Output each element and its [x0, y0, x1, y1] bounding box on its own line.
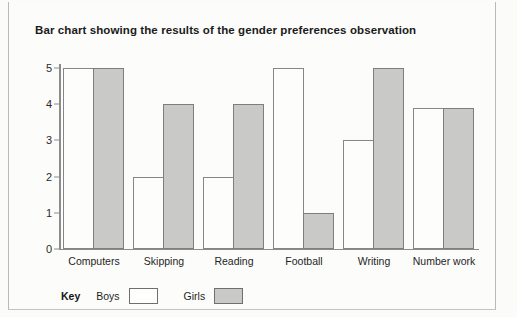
x-axis-category-label: Skipping: [129, 255, 199, 267]
y-axis-tick-label: 4: [46, 99, 52, 110]
y-axis-tick-label: 1: [46, 207, 52, 218]
x-axis-category-label: Number work: [409, 255, 479, 267]
y-axis-tick-label: 2: [46, 171, 52, 182]
y-axis-tick-label: 0: [46, 244, 52, 255]
bar-group: [409, 68, 479, 249]
legend-entry-label: Boys: [96, 290, 119, 302]
bar-boys: [343, 140, 374, 249]
bar-boys: [203, 177, 234, 249]
x-axis-category-label: Football: [269, 255, 339, 267]
x-axis-category-label: Computers: [59, 255, 129, 267]
legend-entry: Boys: [96, 288, 157, 304]
legend-entries: BoysGirls: [96, 288, 243, 304]
y-axis-tick-label: 5: [46, 63, 52, 74]
bar-group: [339, 68, 409, 249]
bar-girls: [373, 68, 404, 249]
bar-boys: [273, 68, 304, 249]
legend-swatch-boys: [129, 288, 158, 304]
bar-group: [129, 68, 199, 249]
bar-girls: [303, 213, 334, 249]
x-axis-category-label: Reading: [199, 255, 269, 267]
x-axis-category-label: Writing: [339, 255, 409, 267]
plot-area: 012345 ComputersSkippingReadingFootballW…: [59, 68, 479, 249]
bar-group: [59, 68, 129, 249]
legend-entry: Girls: [184, 288, 244, 304]
page-frame: Bar chart showing the results of the gen…: [8, 2, 496, 310]
y-axis-tick-label: 3: [46, 135, 52, 146]
bar-girls: [443, 108, 474, 249]
legend-entry-label: Girls: [184, 290, 206, 302]
legend-key-label: Key: [61, 290, 80, 302]
chart-legend: Key BoysGirls: [61, 288, 243, 304]
bar-boys: [63, 68, 94, 249]
scanned-page: Bar chart showing the results of the gen…: [0, 0, 517, 317]
bar-group: [199, 68, 269, 249]
bar-girls: [93, 68, 124, 249]
bar-girls: [233, 104, 264, 249]
bar-boys: [133, 177, 164, 249]
legend-swatch-girls: [214, 288, 243, 304]
page-title: Bar chart showing the results of the gen…: [35, 24, 416, 36]
bar-girls: [163, 104, 194, 249]
bar-boys: [413, 108, 444, 249]
bar-group: [269, 68, 339, 249]
